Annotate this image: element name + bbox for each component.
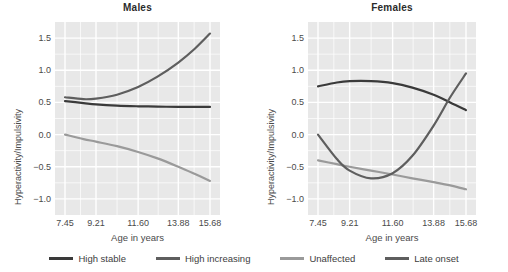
x-tick-label: 15.68 [193,218,227,229]
x-tick-label: 9.21 [333,218,367,229]
y-tick-label: 1.5 [274,33,304,43]
y-tick-label: 0.0 [274,130,304,140]
x-tick-label: 11.60 [121,218,155,229]
y-axis-title-males: Hyperactivity/Impulsivity [13,109,23,205]
y-tick-label: 1.5 [21,33,51,43]
y-tick-label: −0.5 [21,162,51,172]
x-axis-title-females: Age in years [308,232,476,243]
y-tick-label: 0.5 [21,97,51,107]
y-tick-label: −0.5 [274,162,304,172]
chart-legend: High stableHigh increasingUnaffectedLate… [0,248,508,268]
legend-swatch-icon [156,257,180,260]
legend-item-high-increasing[interactable]: High increasing [156,253,250,264]
x-tick-label: 15.68 [449,218,483,229]
legend-label: High increasing [185,253,250,264]
panel-title-males: Males [55,2,220,13]
x-tick-label: 13.88 [417,218,451,229]
plot-area-females [308,22,476,215]
x-tick-label: 13.88 [161,218,195,229]
x-tick-label: 7.45 [301,218,335,229]
y-tick-label: −1.0 [21,194,51,204]
legend-item-unaffected[interactable]: Unaffected [280,253,355,264]
y-tick-label: −1.0 [274,194,304,204]
legend-swatch-icon [385,257,409,260]
legend-label: Late onset [414,253,458,264]
x-tick-label: 11.60 [376,218,410,229]
chart-figure: Males Females Hyperactivity/Impulsivity … [0,0,508,272]
x-axis-title-males: Age in years [55,232,220,243]
plot-area-males [55,22,220,215]
panel-title-females: Females [308,2,476,13]
y-tick-label: 0.5 [274,97,304,107]
plot-panel-males [55,22,220,215]
x-tick-label: 7.45 [48,218,82,229]
y-tick-label: 1.0 [274,65,304,75]
plot-panel-females [308,22,476,215]
legend-swatch-icon [49,257,73,260]
legend-label: High stable [78,253,126,264]
legend-item-late-onset[interactable]: Late onset [385,253,458,264]
y-tick-label: 1.0 [21,65,51,75]
y-axis-title-females: Hyperactivity/Impulsivity [266,109,276,205]
legend-swatch-icon [280,257,304,260]
y-tick-label: 0.0 [21,130,51,140]
legend-item-high-stable[interactable]: High stable [49,253,126,264]
x-tick-label: 9.21 [79,218,113,229]
legend-label: Unaffected [309,253,355,264]
